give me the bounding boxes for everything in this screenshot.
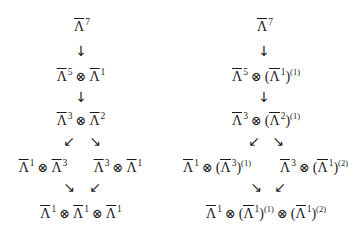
arrow-southwest-icon: ↙ (89, 180, 101, 194)
tensor-icon: ⊗ (76, 113, 87, 128)
arrow-southeast-icon: ↘ (89, 134, 101, 148)
node-lambda5-tensor-twisted-lambda1: Λ5⊗(Λ1)(1) (232, 64, 300, 85)
lambda-bar: Λ (106, 204, 116, 222)
exponent: 5 (243, 67, 248, 77)
arrow-southwest-icon: ↙ (248, 134, 260, 148)
exponent: 1 (117, 204, 122, 214)
node-lambda7: Λ7 (74, 14, 90, 35)
exponent: 3 (105, 158, 110, 168)
exponent: 2 (101, 111, 106, 121)
lambda-bar: Λ (296, 204, 306, 222)
node-lambda3-tensor-lambda2: Λ3⊗Λ2 (57, 108, 106, 129)
lambda-bar: Λ (94, 158, 104, 176)
exponent: 5 (68, 67, 73, 77)
lambda-bar: Λ (74, 17, 84, 35)
node-lambda7-twisted: Λ7 (257, 14, 273, 35)
frobenius-twist: (1) (290, 111, 300, 121)
lambda-bar: Λ (57, 67, 67, 85)
exponent: 1 (194, 158, 199, 168)
lambda-bar: Λ (220, 158, 230, 176)
lambda-bar: Λ (89, 111, 99, 129)
arrow-down-icon: ↓ (75, 44, 87, 58)
tensor-icon: ⊗ (299, 160, 310, 175)
lambda-bar: Λ (183, 158, 193, 176)
node-lambda3-tensor-twisted-lambda2: Λ3⊗(Λ2)(1) (232, 108, 300, 129)
exponent: 1 (84, 204, 89, 214)
exponent: 3 (291, 158, 296, 168)
exponent: 1 (217, 204, 222, 214)
lambda-bar: Λ (232, 67, 242, 85)
lambda-bar: Λ (269, 67, 279, 85)
lambda-bar: Λ (243, 204, 253, 222)
frobenius-twist: (1) (290, 67, 300, 77)
tensor-icon: ⊗ (202, 160, 213, 175)
exponent: 3 (63, 158, 68, 168)
tensor-icon: ⊗ (251, 69, 262, 84)
frobenius-twist: (2) (316, 204, 326, 214)
lambda-bar: Λ (19, 158, 29, 176)
tensor-icon: ⊗ (59, 206, 70, 221)
arrow-down-icon: ↓ (258, 44, 270, 58)
arrow-southeast-icon: ↘ (272, 134, 284, 148)
lambda-bar: Λ (89, 67, 99, 85)
lambda-bar: Λ (317, 158, 327, 176)
lambda-bar: Λ (40, 204, 50, 222)
lambda-bar: Λ (206, 204, 216, 222)
tensor-icon: ⊗ (277, 206, 288, 221)
lambda-bar: Λ (257, 17, 267, 35)
lambda-bar: Λ (51, 158, 61, 176)
exponent: 7 (85, 17, 90, 27)
tensor-icon: ⊗ (113, 160, 124, 175)
tensor-icon: ⊗ (38, 160, 49, 175)
exponent: 3 (68, 111, 73, 121)
exponent: 1 (51, 204, 56, 214)
node-lambda1-tensor-lambda3: Λ1⊗Λ3 (19, 155, 68, 176)
lambda-bar: Λ (126, 158, 136, 176)
arrow-down-icon: ↓ (258, 90, 270, 104)
tensor-icon: ⊗ (251, 113, 262, 128)
lambda-bar: Λ (232, 111, 242, 129)
exponent: 1 (138, 158, 143, 168)
frobenius-twist: (1) (264, 204, 274, 214)
arrow-southeast-icon: ↘ (63, 180, 75, 194)
exponent: 1 (101, 67, 106, 77)
arrow-southwest-icon: ↙ (274, 180, 286, 194)
tensor-icon: ⊗ (92, 206, 103, 221)
node-lambda5-tensor-lambda1: Λ5⊗Λ1 (57, 64, 106, 85)
arrow-down-icon: ↓ (75, 90, 87, 104)
exponent: 3 (243, 111, 248, 121)
node-lambda1-tensor-twisted-lambda1-tensor-twisted2-lambda1: Λ1⊗(Λ1)(1)⊗(Λ1)(2) (206, 201, 326, 222)
exponent: 7 (268, 17, 273, 27)
lambda-bar: Λ (73, 204, 83, 222)
node-lambda1-tensor-lambda1-tensor-lambda1: Λ1⊗Λ1⊗Λ1 (40, 201, 122, 222)
node-lambda1-tensor-twisted-lambda3: Λ1⊗(Λ3)(1) (183, 155, 251, 176)
exponent: 1 (30, 158, 35, 168)
tensor-icon: ⊗ (225, 206, 236, 221)
arrow-southwest-icon: ↙ (63, 134, 75, 148)
frobenius-twist: (2) (338, 158, 348, 168)
lambda-bar: Λ (280, 158, 290, 176)
arrow-southeast-icon: ↘ (250, 180, 262, 194)
node-lambda3-tensor-twisted2-lambda1: Λ3⊗(Λ1)(2) (280, 155, 348, 176)
tensor-icon: ⊗ (76, 69, 87, 84)
frobenius-twist: (1) (241, 158, 251, 168)
lambda-bar: Λ (269, 111, 279, 129)
lambda-bar: Λ (57, 111, 67, 129)
node-lambda3-tensor-lambda1: Λ3⊗Λ1 (94, 155, 143, 176)
